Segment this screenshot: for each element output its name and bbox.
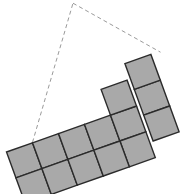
geometry-figure bbox=[0, 0, 183, 194]
figure-root bbox=[0, 0, 183, 194]
